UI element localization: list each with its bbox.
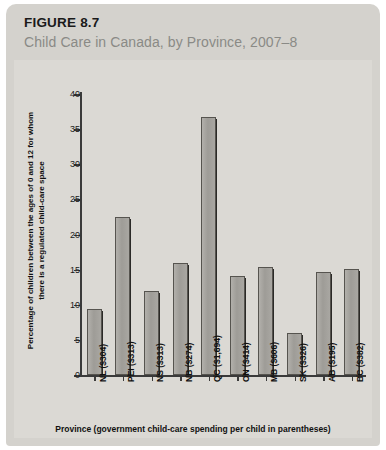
y-axis-line <box>80 92 82 377</box>
x-axis-tick <box>123 376 125 381</box>
y-axis-tick-label: 25 <box>44 194 80 204</box>
x-axis-category-label: NL ($304) <box>98 344 108 382</box>
x-axis-category-label: NB ($274) <box>184 343 194 382</box>
y-axis-tick-label: 20 <box>44 229 80 239</box>
chart-plot-area: 0510152025303540 NL ($304)PEI ($313)NS (… <box>14 60 372 438</box>
y-axis-tick-label: 40 <box>44 89 80 99</box>
x-axis-category-label: QC ($1,694) <box>212 335 222 382</box>
y-axis-tick-label: 10 <box>44 299 80 309</box>
y-axis-tick-label: 0 <box>44 370 80 380</box>
x-axis-category-label: ON ($414) <box>241 342 251 382</box>
x-axis-category-label: MB ($606) <box>269 342 279 382</box>
y-axis-tick-label: 35 <box>44 124 80 134</box>
x-axis-tick <box>237 376 239 381</box>
y-axis-tick-label: 5 <box>44 334 80 344</box>
figure-card: FIGURE 8.7 Child Care in Canada, by Prov… <box>6 4 380 446</box>
x-axis-category-label: SK ($326) <box>298 343 308 382</box>
x-axis-tick <box>152 376 154 381</box>
y-axis-tick-label: 30 <box>44 159 80 169</box>
x-axis-tick <box>209 376 211 381</box>
figure-subtitle: Child Care in Canada, by Province, 2007–… <box>24 34 297 50</box>
x-axis-tick <box>352 376 354 381</box>
x-axis-category-label: BC ($382) <box>355 343 365 382</box>
x-axis-category-label: PEI ($313) <box>126 341 136 382</box>
y-axis-title: Percentage of children between the ages … <box>26 106 47 356</box>
x-axis-category-label: AB ($195) <box>327 343 337 382</box>
x-axis-tick <box>295 376 297 381</box>
figure-header: FIGURE 8.7 Child Care in Canada, by Prov… <box>6 4 380 60</box>
x-axis-tick <box>180 376 182 381</box>
y-axis-tick-label: 15 <box>44 264 80 274</box>
x-axis-tick <box>94 376 96 381</box>
x-axis-tick <box>323 376 325 381</box>
figure-number: FIGURE 8.7 <box>24 15 100 30</box>
x-axis-tick <box>266 376 268 381</box>
x-axis-title: Province (government child-care spending… <box>14 424 372 434</box>
x-axis-category-label: NS ($313) <box>155 343 165 382</box>
